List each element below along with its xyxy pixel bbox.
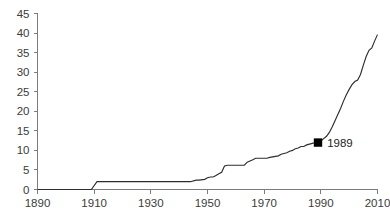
x-tick-label: 2010 — [365, 197, 390, 209]
x-tick-label: 1890 — [25, 197, 51, 209]
y-tick-label: 40 — [17, 27, 30, 39]
x-tick-label: 1950 — [195, 197, 221, 209]
y-tick-label: 45 — [17, 8, 30, 20]
line-chart: 0510152025303540451890191019301950197019… — [0, 0, 390, 222]
x-tick-label: 1990 — [308, 197, 334, 209]
x-tick-label: 1930 — [138, 197, 164, 209]
y-tick-label: 10 — [17, 144, 30, 156]
y-tick-label: 30 — [17, 66, 30, 78]
chart-container: 0510152025303540451890191019301950197019… — [0, 0, 390, 222]
x-tick-label: 1970 — [251, 197, 277, 209]
y-tick-label: 5 — [23, 164, 29, 176]
annotation-label: 1989 — [327, 137, 353, 149]
y-tick-label: 20 — [17, 105, 30, 117]
data-series-line — [38, 35, 378, 190]
y-tick-label: 35 — [17, 47, 30, 59]
y-tick-label: 25 — [17, 86, 30, 98]
y-tick-label: 0 — [23, 184, 29, 196]
annotation-marker — [314, 138, 322, 146]
x-tick-label: 1910 — [81, 197, 107, 209]
y-tick-label: 15 — [17, 125, 30, 137]
